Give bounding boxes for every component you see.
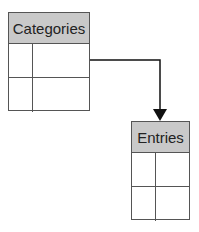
arrowhead-icon — [153, 109, 167, 121]
relationship-connector — [0, 0, 199, 232]
connector-line — [90, 60, 160, 110]
